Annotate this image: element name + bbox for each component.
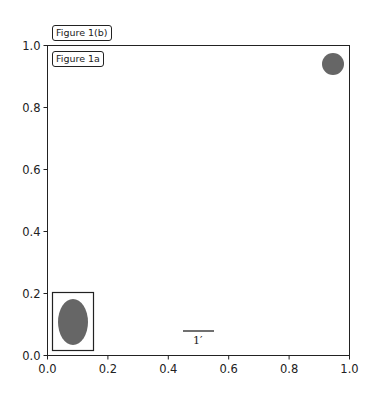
y-tick-label: 0.8: [22, 101, 40, 115]
ellipse-marker: [58, 299, 88, 345]
annotation-figure-1a: Figure 1a: [52, 51, 104, 67]
scalebar-label: 1′: [193, 334, 203, 347]
y-tick-label: 0.4: [22, 225, 40, 239]
x-tick-label: 0.2: [99, 362, 117, 376]
annotation-figure-1b: Figure 1(b): [52, 25, 112, 41]
y-tick-label: 1.0: [22, 39, 40, 53]
y-tick-label: 0.6: [22, 163, 40, 177]
x-tick-label: 1.0: [340, 362, 358, 376]
y-tick-label: 0.0: [22, 349, 40, 363]
y-axis: 0.00.20.40.60.81.0: [22, 39, 47, 363]
x-tick-label: 0.8: [280, 362, 298, 376]
x-tick-label: 0.6: [220, 362, 238, 376]
axes-frame: [48, 46, 350, 356]
x-tick-label: 0.0: [38, 362, 56, 376]
x-tick-label: 0.4: [159, 362, 177, 376]
x-axis: 0.00.20.40.60.81.0: [38, 356, 358, 376]
y-tick-label: 0.2: [22, 287, 40, 301]
circle-marker: [322, 53, 344, 75]
